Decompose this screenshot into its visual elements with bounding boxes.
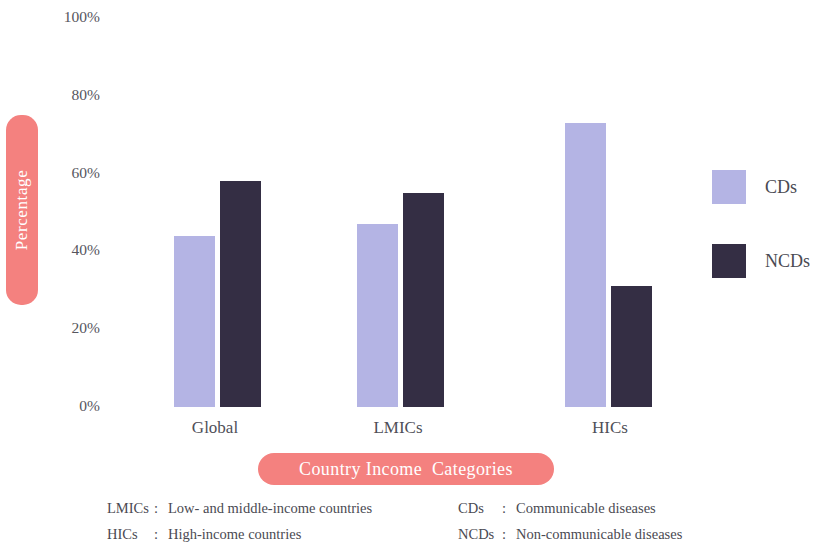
- footnote-row: CDs:Communicable diseases: [458, 500, 808, 526]
- footnote-separator: :: [154, 500, 168, 517]
- footnote-separator: :: [502, 526, 516, 543]
- bar-global-ncds: [220, 181, 261, 407]
- y-axis-tick-label: 80%: [72, 86, 100, 104]
- legend-label-ncds: NCDs: [765, 251, 810, 272]
- x-axis-title: Country Income Categories: [258, 453, 554, 485]
- legend-swatch-ncds: [712, 244, 746, 278]
- x-axis-title-label: Country Income Categories: [299, 459, 513, 480]
- footnotes-right-column: CDs:Communicable diseasesNCDs:Non-commun…: [458, 500, 808, 552]
- footnote-value: Non-communicable diseases: [516, 526, 682, 543]
- y-axis-tick-labels: 100%80%60%40%20%0%: [38, 0, 100, 558]
- footnote-separator: :: [502, 500, 516, 517]
- y-axis-title-label: Percentage: [12, 170, 32, 251]
- footnote-row: NCDs:Non-communicable diseases: [458, 526, 808, 552]
- bar-chart: 100%80%60%40%20%0% Percentage GlobalLMIC…: [0, 0, 817, 558]
- footnote-separator: :: [154, 526, 168, 543]
- y-axis-tick-label: 40%: [72, 241, 100, 259]
- bar-lmics-cds: [357, 224, 398, 407]
- legend-swatch-cds: [712, 170, 746, 204]
- footnote-value: Low- and middle-income countries: [168, 500, 372, 517]
- y-axis-tick-label: 100%: [64, 8, 100, 26]
- y-axis-tick-label: 60%: [72, 164, 100, 182]
- y-axis-title: Percentage: [6, 115, 38, 305]
- footnote-key: CDs: [458, 500, 502, 517]
- bar-hics-ncds: [611, 286, 652, 407]
- legend-item-cds[interactable]: CDs: [712, 170, 812, 204]
- legend-label-cds: CDs: [765, 177, 797, 198]
- footnote-value: Communicable diseases: [516, 500, 656, 517]
- x-axis-label-global: Global: [192, 418, 238, 438]
- footnote-row: HICs:High-income countries: [107, 526, 447, 552]
- y-axis-tick-label: 0%: [79, 397, 100, 415]
- bar-hics-cds: [565, 123, 606, 407]
- legend: CDsNCDs: [712, 170, 812, 318]
- y-axis-tick-label: 20%: [72, 319, 100, 337]
- footnote-key: HICs: [107, 526, 154, 543]
- x-axis-label-lmics: LMICs: [373, 418, 422, 438]
- footnotes-left-column: LMICs:Low- and middle-income countriesHI…: [107, 500, 447, 552]
- x-axis-label-hics: HICs: [592, 418, 628, 438]
- footnote-key: NCDs: [458, 526, 502, 543]
- legend-item-ncds[interactable]: NCDs: [712, 244, 812, 278]
- footnote-row: LMICs:Low- and middle-income countries: [107, 500, 447, 526]
- footnotes: LMICs:Low- and middle-income countriesHI…: [0, 500, 817, 558]
- footnote-value: High-income countries: [168, 526, 301, 543]
- footnote-key: LMICs: [107, 500, 154, 517]
- bar-global-cds: [174, 236, 215, 407]
- bar-lmics-ncds: [403, 193, 444, 407]
